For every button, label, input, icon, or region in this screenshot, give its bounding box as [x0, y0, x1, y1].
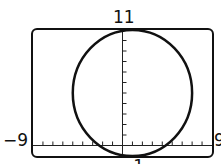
graph-window	[0, 0, 221, 164]
circle-curve	[73, 30, 192, 156]
